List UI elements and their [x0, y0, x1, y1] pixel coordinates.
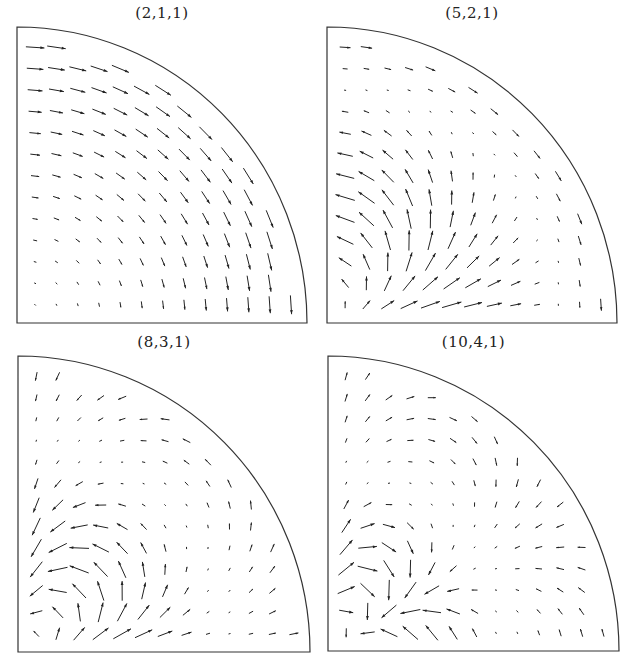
vector-arrow	[338, 562, 354, 575]
vector-arrow	[516, 501, 520, 507]
vector-arrow	[386, 395, 393, 400]
vector-arrow	[407, 440, 413, 441]
vector-arrow	[425, 586, 440, 595]
vector-arrow	[495, 611, 497, 612]
vector-arrow	[473, 459, 476, 466]
vector-arrow	[578, 546, 586, 548]
vector-arrow	[387, 439, 392, 441]
vector-arrow	[453, 503, 454, 505]
vector-arrow	[403, 626, 418, 639]
vector-arrow	[516, 611, 518, 613]
vector-arrow	[431, 542, 433, 552]
vector-arrow	[447, 609, 460, 614]
vector-arrow	[405, 582, 416, 598]
vector-arrow	[340, 540, 353, 555]
vector-arrow	[495, 458, 497, 466]
vector-arrow	[556, 524, 564, 527]
vector-arrow	[383, 524, 395, 528]
vector-arrow	[431, 524, 433, 529]
vector-arrow	[382, 543, 396, 552]
domain-boundary	[328, 356, 619, 651]
vector-arrow	[537, 480, 541, 487]
vector-arrow	[344, 500, 349, 509]
vector-arrow	[361, 632, 375, 635]
vector-field-plot	[0, 0, 636, 669]
vector-arrow	[342, 519, 351, 532]
vector-arrow	[474, 547, 475, 549]
vector-arrow	[366, 603, 369, 620]
vector-arrow	[384, 560, 395, 577]
vector-arrow	[449, 626, 457, 639]
vector-arrow	[516, 590, 519, 591]
vector-arrow	[407, 418, 415, 420]
vector-arrow	[450, 417, 457, 420]
vector-arrow	[366, 439, 369, 443]
vector-arrow	[450, 566, 457, 572]
vector-arrow	[388, 461, 391, 462]
vector-arrow	[428, 440, 435, 442]
vector-arrow	[346, 461, 347, 463]
vector-arrow	[452, 545, 454, 549]
vector-arrow	[452, 481, 454, 485]
vector-arrow	[538, 631, 540, 636]
vector-arrow	[386, 417, 392, 421]
vector-arrow	[361, 583, 375, 597]
vector-arrow	[516, 479, 518, 487]
vector-arrow	[381, 629, 398, 637]
vector-arrow	[428, 397, 436, 399]
vector-arrow	[578, 588, 585, 593]
vector-arrow	[474, 480, 476, 486]
vector-arrow	[345, 438, 347, 442]
vector-arrow	[472, 629, 476, 637]
vector-arrow	[407, 541, 413, 554]
vector-arrow	[423, 609, 441, 612]
vector-arrow	[429, 562, 436, 575]
vector-arrow	[400, 610, 420, 615]
vector-arrow	[557, 588, 563, 592]
vector-arrow	[495, 524, 498, 528]
vector-arrow	[407, 396, 415, 399]
vector-arrow	[386, 504, 392, 505]
vector-arrow	[365, 394, 370, 401]
vector-arrow	[409, 504, 412, 506]
vector-arrow	[345, 416, 347, 423]
vector-arrow	[471, 609, 478, 613]
vector-arrow	[558, 609, 563, 615]
vector-arrow	[579, 608, 584, 615]
vector-arrow	[409, 483, 411, 484]
vector-arrow	[473, 568, 475, 569]
vector-arrow	[536, 524, 543, 528]
vector-arrow	[580, 629, 582, 637]
vector-arrow	[365, 416, 369, 421]
vector-arrow	[407, 523, 414, 530]
vector-arrow	[358, 545, 377, 548]
vector-arrow	[474, 525, 475, 527]
vector-arrow	[472, 589, 478, 590]
vector-arrow	[472, 417, 478, 422]
vector-arrow	[536, 568, 543, 569]
vector-arrow	[431, 504, 432, 506]
vector-arrow	[450, 438, 456, 442]
panel-10-4-1: (10,4,1)	[0, 0, 636, 669]
vector-arrow	[429, 461, 434, 463]
vector-arrow	[409, 560, 412, 578]
vector-arrow	[557, 502, 563, 507]
vector-arrow	[536, 502, 542, 508]
vector-arrow	[367, 461, 369, 463]
vector-arrow	[346, 482, 347, 485]
vector-arrow	[364, 503, 372, 507]
vector-arrow	[495, 546, 498, 548]
vector-arrow	[578, 567, 586, 570]
vector-arrow	[494, 437, 497, 444]
vector-arrow	[387, 580, 390, 600]
vector-arrow	[431, 482, 433, 484]
vector-arrow	[517, 458, 519, 466]
vector-arrow	[515, 524, 520, 528]
vector-arrow	[472, 437, 477, 443]
vector-arrow	[602, 629, 604, 637]
vector-arrow	[536, 589, 541, 592]
vector-arrow	[447, 589, 459, 592]
vector-arrow	[345, 372, 347, 380]
vector-arrow	[495, 502, 497, 508]
vector-arrow	[535, 547, 542, 549]
